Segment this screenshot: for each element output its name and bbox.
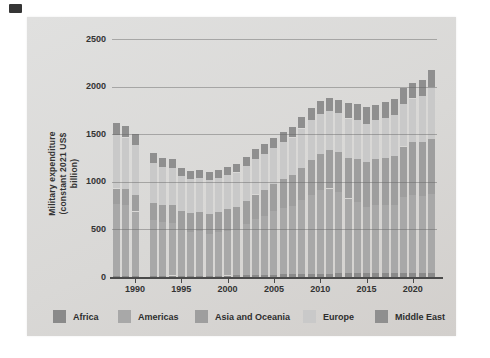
y-axis-title-line1: Military expenditure xyxy=(47,121,58,227)
chart-panel xyxy=(27,17,456,336)
legend-swatch-africa xyxy=(53,310,66,323)
legend-item-middle-east: Middle East xyxy=(375,310,445,323)
legend-label-middle-east: Middle East xyxy=(395,312,445,322)
legend-item-americas: Americas xyxy=(118,310,179,323)
y-axis-title: Military expenditure (constant 2021 US$ … xyxy=(47,121,80,227)
legend-swatch-middle-east xyxy=(375,310,388,323)
legend-label-americas: Americas xyxy=(138,312,179,322)
page-corner-mark xyxy=(9,4,22,13)
legend-item-europe: Europe xyxy=(303,310,354,323)
legend-label-europe: Europe xyxy=(323,312,354,322)
figure-page: Military expenditure (constant 2021 US$ … xyxy=(0,0,490,358)
legend-label-asia-oceania: Asia and Oceania xyxy=(215,312,290,322)
legend-label-africa: Africa xyxy=(73,312,99,322)
legend-swatch-asia-oceania xyxy=(195,310,208,323)
legend-item-asia-oceania: Asia and Oceania xyxy=(195,310,290,323)
legend-swatch-europe xyxy=(303,310,316,323)
legend-swatch-americas xyxy=(118,310,131,323)
y-axis-title-line2: (constant 2021 US$ billion) xyxy=(58,121,80,227)
legend-item-africa: Africa xyxy=(53,310,99,323)
